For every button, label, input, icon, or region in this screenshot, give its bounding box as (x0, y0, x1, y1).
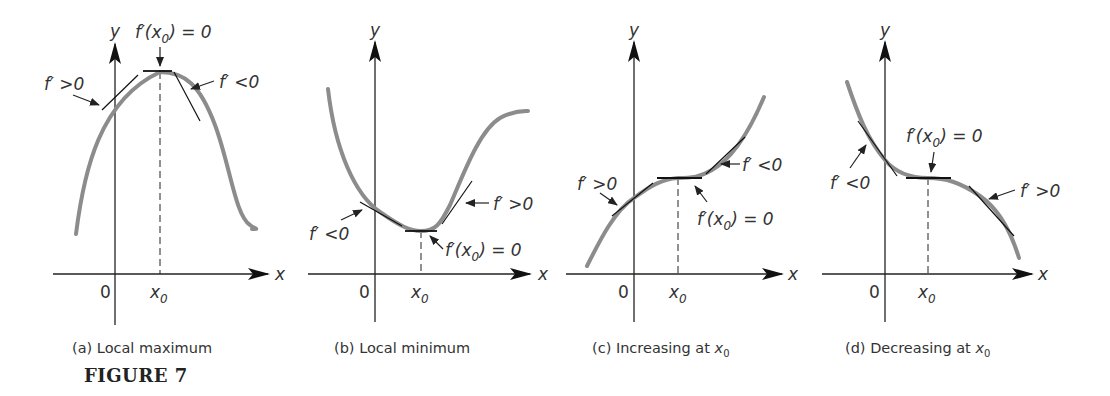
panel-a-local-maximum: y x 0 x0 f′ >0 f′(x0) = 0 f′ <0 (44, 21, 286, 325)
x0-label: x0 (410, 282, 429, 306)
caption-var: x (715, 340, 724, 356)
annotation-left: f′ >0 (577, 174, 617, 194)
function-curve (847, 82, 1019, 258)
caption-text: (b) Local minimum (334, 340, 470, 356)
arrow-center (695, 186, 707, 202)
caption-text: (c) Increasing at (592, 340, 715, 356)
arrow-left (73, 95, 99, 105)
origin-label: 0 (359, 282, 370, 302)
caption-panel-b: (b) Local minimum (334, 340, 470, 356)
x0-label: x0 (149, 282, 168, 306)
y-axis-label: y (628, 20, 640, 40)
caption-panel-c: (c) Increasing at x0 (592, 340, 730, 359)
annotation-right: f′ >0 (493, 194, 533, 214)
y-axis-label: y (109, 21, 121, 41)
tangent-negative (360, 202, 402, 226)
x0-label: x0 (668, 282, 687, 306)
panel-d-decreasing: y x 0 x0 f′ <0 f′(x0) = 0 f′ >0 (822, 20, 1060, 322)
annotation-right: f′ <0 (742, 155, 782, 175)
origin-label: 0 (100, 282, 111, 302)
arrow-left (341, 210, 362, 220)
annotation-left: f′ <0 (830, 173, 870, 193)
figure-7-diagram: y x 0 x0 f′ >0 f′(x0) = 0 f′ <0 y x 0 x0… (0, 0, 1110, 396)
tangent-right (969, 186, 1014, 236)
panel-c-increasing: y x 0 x0 f′ >0 f′(x0) = 0 f′ <0 (566, 20, 799, 322)
y-axis-label: y (369, 20, 381, 40)
x-axis-label: x (274, 264, 286, 284)
x-axis-label: x (1037, 264, 1049, 284)
caption-text: (a) Local maximum (72, 340, 212, 356)
y-axis-label: y (879, 20, 891, 40)
x0-label: x0 (917, 282, 936, 306)
caption-panel-a: (a) Local maximum (72, 340, 212, 356)
function-curve (76, 72, 256, 234)
annotation-right: f′ <0 (219, 72, 259, 92)
x-axis-label: x (787, 264, 799, 284)
arrow-left (600, 193, 617, 205)
annotation-left: f′ >0 (44, 74, 84, 94)
caption-text: (d) Decreasing at (845, 340, 975, 356)
annotation-center: f′(x0) = 0 (906, 126, 983, 150)
caption-sub: 0 (984, 348, 990, 359)
x-axis-label: x (537, 264, 549, 284)
annotation-center: f′(x0) = 0 (445, 240, 522, 264)
annotation-center: f′(x0) = 0 (697, 209, 774, 233)
caption-panel-d: (d) Decreasing at x0 (845, 340, 990, 359)
origin-label: 0 (869, 282, 880, 302)
arrow-right (989, 190, 1015, 199)
arrow-left (850, 145, 866, 168)
caption-sub: 0 (723, 348, 729, 359)
arrow-center (430, 236, 443, 249)
annotation-left: f′ <0 (309, 224, 349, 244)
panel-b-local-minimum: y x 0 x0 f′ <0 f′(x0) = 0 f′ >0 (308, 20, 549, 322)
annotation-right: f′ >0 (1020, 181, 1060, 201)
arrow-center (931, 152, 934, 172)
caption-var: x (975, 340, 984, 356)
annotation-center: f′(x0) = 0 (135, 22, 212, 46)
figure-label: FIGURE 7 (84, 365, 188, 386)
tangent-positive (612, 183, 653, 216)
origin-label: 0 (618, 282, 629, 302)
tangent-right (706, 137, 745, 174)
